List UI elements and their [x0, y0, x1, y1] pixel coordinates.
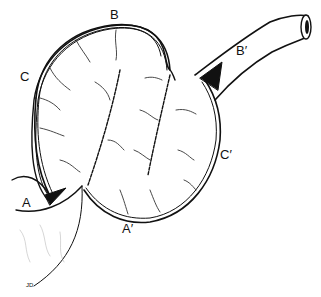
bottom-arc — [84, 80, 220, 223]
loop-outline-outer — [32, 25, 175, 200]
seam-right — [148, 75, 170, 175]
tube-fold — [200, 62, 222, 90]
seam-left — [88, 70, 120, 185]
artist-signature: JD — [26, 282, 33, 288]
label-a: A — [22, 196, 31, 209]
rugae-marks — [40, 30, 196, 214]
anatomical-illustration — [0, 0, 321, 297]
faint-texture — [20, 225, 64, 262]
label-c-prime: C′ — [220, 148, 232, 161]
tube-bottom — [215, 38, 305, 100]
label-a-prime: A′ — [122, 222, 133, 235]
label-b: B — [110, 8, 119, 21]
stub-top — [12, 177, 50, 196]
label-c: C — [20, 70, 29, 83]
label-b-prime: B′ — [236, 44, 247, 57]
mesentery-line — [34, 186, 82, 286]
